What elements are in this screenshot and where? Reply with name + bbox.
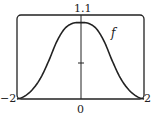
x-max-label: 2 bbox=[144, 93, 151, 104]
x-zero-label: 0 bbox=[77, 104, 84, 115]
x-min-label: −2 bbox=[0, 93, 16, 104]
y-max-label: 1.1 bbox=[74, 3, 92, 14]
chart-plot bbox=[0, 0, 151, 121]
curve-label-f: f bbox=[111, 27, 115, 39]
